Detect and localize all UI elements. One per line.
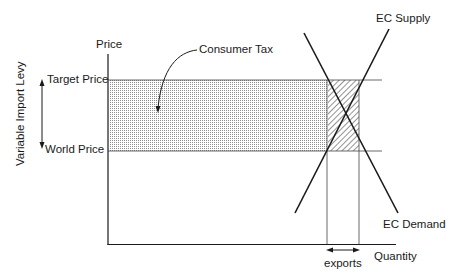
exports-arrow-left-icon	[326, 248, 333, 253]
consumer-tax-label: Consumer Tax	[199, 44, 273, 56]
y-axis-label: Price	[96, 39, 122, 51]
consumer-tax-area	[109, 80, 328, 151]
target-price-label: Target Price	[47, 74, 108, 86]
diagram-canvas	[0, 0, 466, 279]
ec-demand-label: EC Demand	[383, 219, 446, 231]
world-price-label: World Price	[45, 144, 104, 156]
levy-arrow-up-icon	[40, 79, 45, 86]
x-axis-label: Quantity	[374, 251, 417, 263]
exports-label: exports	[324, 258, 362, 270]
exports-arrow-right-icon	[353, 248, 360, 253]
ec-supply-label: EC Supply	[376, 13, 430, 25]
levy-label: Variable Import Levy	[15, 61, 27, 166]
levy-arrow-down-icon	[40, 142, 45, 149]
